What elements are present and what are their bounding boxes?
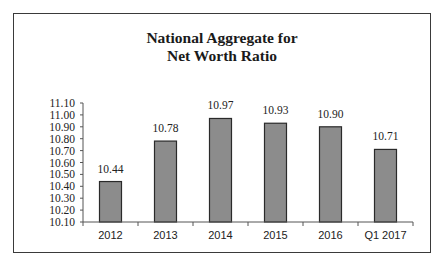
x-tick-label: 2014: [208, 229, 232, 241]
x-axis: 20122013201420152016Q1 2017: [83, 222, 413, 241]
bar: [375, 149, 397, 222]
y-tick-label: 10.20: [49, 204, 75, 216]
bar: [320, 127, 342, 222]
bar-value-label: 10.93: [263, 104, 289, 116]
bar: [100, 182, 122, 222]
bar-value-label: 10.90: [318, 108, 344, 120]
y-tick-label: 10.50: [49, 168, 75, 180]
y-tick-label: 10.80: [49, 133, 75, 145]
bar-value-label: 10.78: [153, 122, 179, 134]
y-axis: 11.1011.0010.9010.8010.7010.6010.5010.40…: [49, 97, 83, 228]
y-tick-label: 11.00: [50, 109, 76, 121]
y-tick-label: 11.10: [50, 97, 76, 109]
bar-value-label: 10.71: [373, 130, 399, 142]
x-tick-label: Q1 2017: [364, 229, 406, 241]
bar: [265, 123, 287, 222]
bars: 10.4410.7810.9710.9310.9010.71: [98, 99, 399, 222]
x-tick-label: 2012: [98, 229, 122, 241]
y-tick-label: 10.40: [49, 180, 75, 192]
bar-value-label: 10.44: [98, 163, 124, 175]
y-tick-label: 10.60: [49, 157, 75, 169]
y-tick-label: 10.30: [49, 192, 75, 204]
x-tick-label: 2015: [263, 229, 287, 241]
x-tick-label: 2016: [318, 229, 342, 241]
y-tick-label: 10.10: [49, 216, 75, 228]
bar-chart: 11.1011.0010.9010.8010.7010.6010.5010.40…: [0, 0, 444, 264]
bar-value-label: 10.97: [208, 99, 234, 111]
bar: [210, 118, 232, 222]
x-tick-label: 2013: [153, 229, 177, 241]
bar: [155, 141, 177, 222]
y-tick-label: 10.90: [49, 121, 75, 133]
y-tick-label: 10.70: [49, 145, 75, 157]
